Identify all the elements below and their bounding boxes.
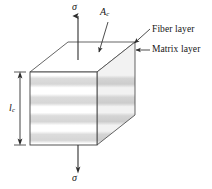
front-face bbox=[30, 72, 97, 145]
length-dimension-line bbox=[14, 72, 26, 146]
matrix-layer-label: Matrix layer bbox=[152, 45, 200, 55]
stress-arrow-bottom bbox=[76, 145, 81, 174]
area-label: Ac bbox=[100, 7, 109, 18]
stress-label-bottom: σ bbox=[72, 173, 77, 183]
fiber-leader-line bbox=[135, 29, 151, 43]
composite-layer-figure: σ σ Ac lc Fiber layer Matrix layer bbox=[0, 0, 212, 189]
area-subscript: c bbox=[106, 10, 109, 17]
length-label: lc bbox=[9, 103, 15, 114]
stress-label-top: σ bbox=[72, 2, 77, 12]
length-subscript: c bbox=[12, 106, 15, 113]
cuboid-body bbox=[30, 42, 135, 145]
fiber-layer-label: Fiber layer bbox=[152, 25, 195, 35]
